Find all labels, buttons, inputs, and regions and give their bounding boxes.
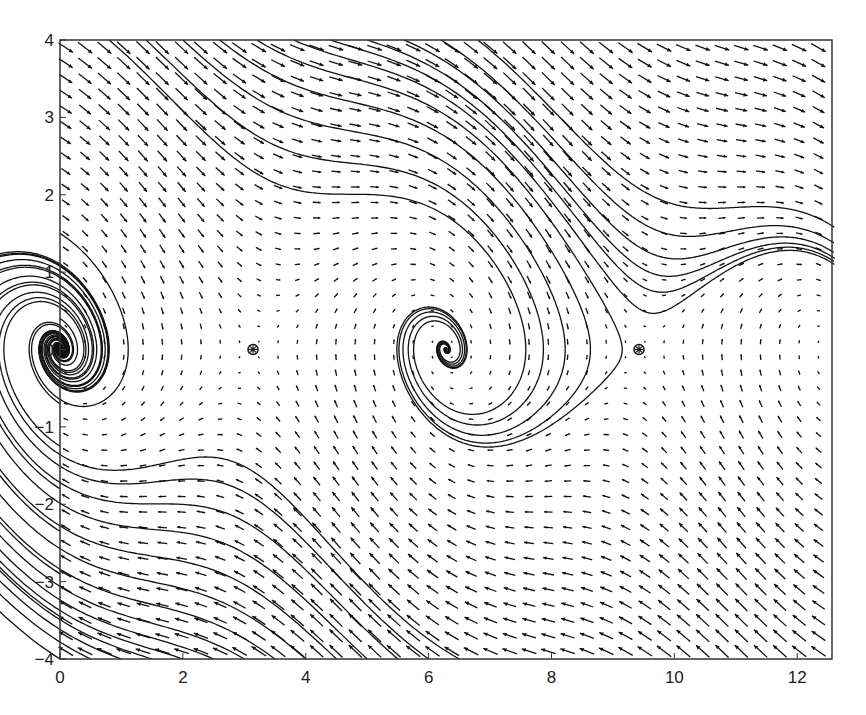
y-tick-label: 1: [45, 263, 54, 282]
y-tick-label: −4: [35, 650, 54, 669]
y-tick-label: −3: [35, 573, 54, 592]
x-tick-label: 4: [301, 668, 310, 687]
y-tick-label: 4: [45, 31, 54, 50]
x-axis-ticks: 024681012: [55, 653, 806, 687]
x-tick-label: 12: [788, 668, 807, 687]
y-tick-label: 0: [45, 341, 54, 360]
y-tick-label: 2: [45, 186, 54, 205]
x-tick-label: 8: [547, 668, 556, 687]
x-tick-label: 10: [665, 668, 684, 687]
phase-portrait-chart: 024681012 −4−3−2−101234: [0, 0, 866, 715]
trajectories: [0, 40, 835, 659]
y-tick-label: 3: [45, 108, 54, 127]
x-tick-label: 0: [55, 668, 64, 687]
y-tick-label: −2: [35, 495, 54, 514]
x-tick-label: 2: [178, 668, 187, 687]
x-tick-label: 6: [424, 668, 433, 687]
y-tick-label: −1: [35, 418, 54, 437]
